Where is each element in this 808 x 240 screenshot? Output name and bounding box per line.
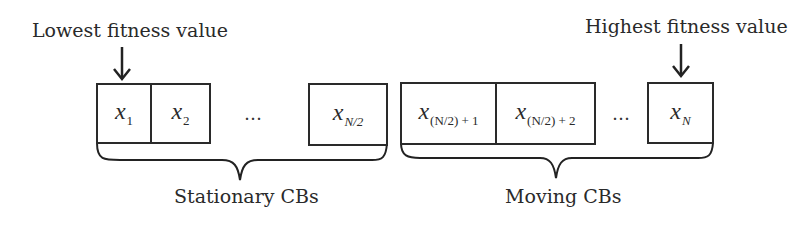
cell-x-n-half-plus-2: x(N/2) + 2	[495, 82, 596, 145]
variable-x-n-half-plus-1: x(N/2) + 1	[418, 98, 478, 129]
cell-x-n: xN	[647, 82, 714, 144]
cell-x-n-half: xN/2	[308, 83, 388, 146]
arrow-down-icon	[673, 44, 689, 76]
variable-x-n: xN	[670, 98, 690, 129]
group-label-moving: Moving CBs	[505, 185, 621, 207]
variable-x1: x1	[115, 98, 133, 129]
ellipsis: …	[612, 103, 632, 124]
variable-x-n-half: xN/2	[333, 99, 363, 130]
ellipsis: …	[244, 103, 264, 124]
brace-stationary	[97, 143, 387, 180]
cell-x1: x1	[96, 83, 152, 144]
cell-x-n-half-plus-1: x(N/2) + 1	[400, 82, 497, 145]
variable-x2: x2	[171, 98, 189, 129]
cell-x2: x2	[150, 83, 211, 144]
group-label-stationary: Stationary CBs	[174, 185, 319, 207]
variable-x-n-half-plus-2: x(N/2) + 2	[515, 98, 575, 129]
arrow-down-icon	[114, 47, 130, 79]
brace-moving	[401, 143, 713, 178]
